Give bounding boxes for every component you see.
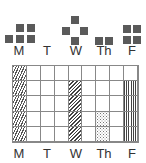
grid-cell [55, 66, 69, 81]
pictograph-square [62, 27, 70, 35]
grid-cell [41, 112, 55, 127]
grid-cell [69, 66, 83, 81]
pictograph-square [5, 35, 13, 43]
grid-cell [27, 81, 41, 96]
pictograph-day-label: Th [96, 44, 111, 57]
grid-cell [110, 127, 124, 142]
grid-cell [27, 127, 41, 142]
grid-cell [82, 81, 96, 96]
pictograph-day-label: M [14, 44, 25, 57]
grid-cell [110, 66, 124, 81]
grid-cell-filled [13, 96, 27, 111]
grid-cell [110, 81, 124, 96]
grid-cell [55, 96, 69, 111]
grid-cell [41, 66, 55, 81]
grid-cell-filled [69, 112, 83, 127]
grid-cell-filled [13, 127, 27, 142]
grid-cell [55, 127, 69, 142]
pictograph-square [27, 24, 35, 32]
pictograph-square [16, 35, 24, 43]
pictograph-square [27, 35, 35, 43]
grid-cell [27, 96, 41, 111]
grid-cell [41, 127, 55, 142]
grid-cell [55, 81, 69, 96]
grid-cell-filled [124, 112, 138, 127]
pictograph-day-label: T [43, 44, 51, 57]
grid-day-label: Th [96, 147, 111, 160]
grid-cell [82, 96, 96, 111]
tally-grid [12, 65, 139, 143]
grid-cell [27, 66, 41, 81]
grid-cell [124, 66, 138, 81]
pictograph-day-label: F [128, 44, 136, 57]
grid-day-label: T [43, 147, 51, 160]
grid-cell-filled [124, 127, 138, 142]
grid-cell [82, 66, 96, 81]
grid-day-label: F [128, 147, 136, 160]
grid-cell [96, 81, 110, 96]
pictograph-square [16, 24, 24, 32]
grid-cell [110, 96, 124, 111]
grid-cell [41, 81, 55, 96]
grid-cell [96, 96, 110, 111]
grid-cell-filled [13, 81, 27, 96]
pictograph-square [71, 16, 79, 24]
grid-cell-filled [96, 112, 110, 127]
grid-cell [82, 112, 96, 127]
grid-cell-filled [13, 112, 27, 127]
grid-cell [96, 66, 110, 81]
grid-cell-filled [96, 127, 110, 142]
grid-cell [55, 112, 69, 127]
pictograph-square [133, 25, 141, 33]
grid-cell [82, 127, 96, 142]
grid-cell-filled [69, 81, 83, 96]
grid-cell [110, 112, 124, 127]
grid-cell [27, 112, 41, 127]
pictograph-square [123, 25, 131, 33]
grid-cell-filled [124, 81, 138, 96]
grid-cell-filled [124, 96, 138, 111]
grid-day-label: M [14, 147, 25, 160]
pictograph-square [80, 27, 88, 35]
grid-cell-filled [69, 127, 83, 142]
grid-cell-filled [13, 66, 27, 81]
grid-day-label: W [70, 147, 82, 160]
grid-cell-filled [69, 96, 83, 111]
pictograph-day-label: W [70, 44, 82, 57]
grid-cell [41, 96, 55, 111]
